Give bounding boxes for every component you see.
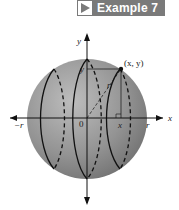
x-axis-arrow-icon bbox=[156, 115, 163, 121]
y-axis-neg-arrow-icon bbox=[84, 197, 90, 205]
neg-r-label: −r bbox=[14, 120, 24, 130]
origin-label: 0 bbox=[79, 119, 84, 129]
sphere-figure: y x 0 −r r x y r (x, y) bbox=[0, 0, 179, 210]
point-x-label: x bbox=[117, 120, 122, 130]
point-marker bbox=[119, 67, 123, 71]
pos-r-label: r bbox=[146, 120, 150, 130]
point-y-label: y bbox=[79, 64, 84, 74]
point-label: (x, y) bbox=[124, 58, 144, 68]
radius-label: r bbox=[107, 80, 111, 90]
y-axis-arrow-icon bbox=[84, 33, 90, 41]
x-axis-label: x bbox=[167, 113, 172, 123]
y-axis-label: y bbox=[76, 36, 81, 46]
